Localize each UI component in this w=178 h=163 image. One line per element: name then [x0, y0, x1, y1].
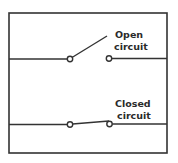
open-circuit-label-line1: Open	[115, 29, 143, 40]
closed-switch-lever	[73, 121, 110, 124]
open-right-terminal	[106, 56, 111, 61]
circuit-diagram: Open circuit Closed circuit	[0, 0, 178, 163]
closed-circuit-switch: Closed circuit	[9, 98, 167, 127]
closed-left-terminal	[67, 122, 72, 127]
diagram-frame	[9, 13, 167, 153]
closed-right-terminal	[107, 121, 112, 126]
open-circuit-switch: Open circuit	[9, 29, 167, 62]
closed-circuit-label-line2: circuit	[117, 110, 151, 121]
open-circuit-label-line2: circuit	[114, 41, 148, 52]
closed-circuit-label-line1: Closed	[115, 98, 151, 109]
open-switch-lever	[72, 36, 107, 58]
